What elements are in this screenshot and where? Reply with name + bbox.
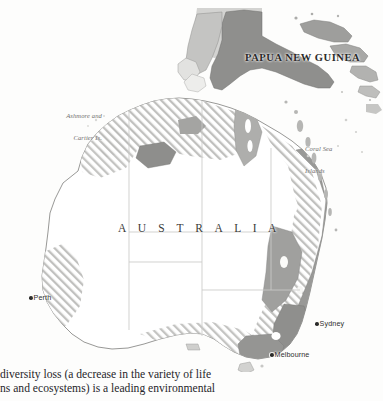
- city-dot-icon: [315, 322, 319, 326]
- body-text-block: diversity loss (a decrease in the variet…: [0, 368, 262, 401]
- page-root: PAPUA NEW GUINEA A U S T R A L I A Ashmo…: [0, 0, 383, 401]
- body-text-line-1: diversity loss (a decrease in the variet…: [0, 368, 262, 382]
- map-figure: PAPUA NEW GUINEA A U S T R A L I A Ashmo…: [0, 0, 383, 372]
- body-text-line-2: ns and ecosystems) is a leading environm…: [0, 382, 262, 396]
- city-dot-icon: [270, 353, 274, 357]
- map-graphic: [0, 0, 383, 372]
- city-dot-icon: [29, 296, 33, 300]
